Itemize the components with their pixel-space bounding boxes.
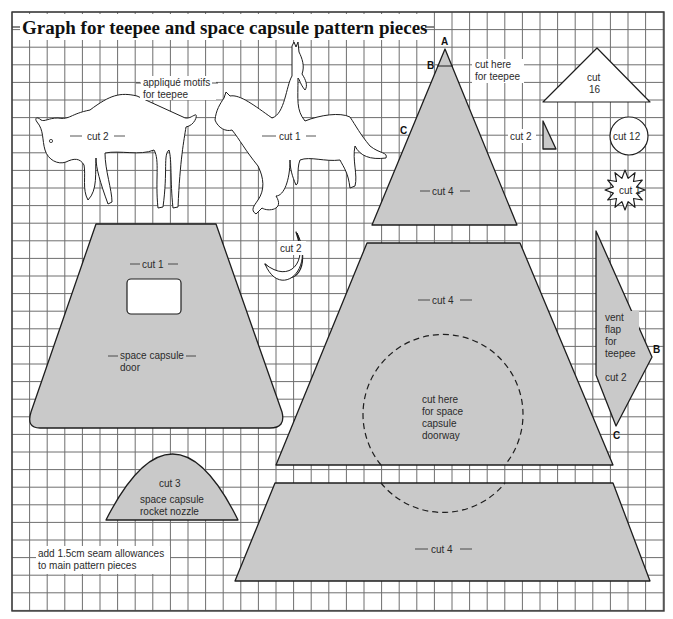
- svg-text:to main pattern pieces: to main pattern pieces: [38, 560, 136, 571]
- roof-triangle-cut-label: cut 16: [587, 72, 601, 95]
- svg-text:cut 3: cut 3: [159, 478, 181, 489]
- vent-point-c-label: C: [613, 430, 620, 441]
- vent-flap-cut-label: cut 2: [603, 371, 631, 385]
- lower-trapezoid-piece: [235, 483, 650, 581]
- pattern-sheet: Graph for teepee and space capsule patte…: [0, 0, 673, 619]
- svg-text:vent: vent: [605, 312, 624, 323]
- svg-text:door: door: [120, 362, 141, 373]
- svg-text:cut 2: cut 2: [87, 131, 109, 142]
- point-b-label: B: [427, 60, 434, 71]
- moon-cut-label: cut 2: [278, 241, 306, 255]
- svg-text:cut 4: cut 4: [432, 186, 454, 197]
- svg-text:cut 2: cut 2: [280, 243, 302, 254]
- svg-text:for space: for space: [422, 406, 464, 417]
- svg-text:capsule: capsule: [422, 418, 457, 429]
- svg-text:space capsule: space capsule: [120, 350, 184, 361]
- svg-text:appliqué motifs: appliqué motifs: [143, 77, 210, 88]
- svg-text:cut 2: cut 2: [510, 131, 532, 142]
- door-name-label: space capsule door: [108, 348, 196, 374]
- svg-text:cut 2: cut 2: [605, 372, 627, 383]
- seam-allowance-note: add 1.5cm seam allowances to main patter…: [36, 546, 170, 574]
- circle-cut-label: cut 12: [613, 131, 641, 142]
- svg-text:cut 1: cut 1: [142, 259, 164, 270]
- vent-point-b-label: B: [653, 344, 660, 355]
- svg-text:for: for: [605, 336, 617, 347]
- svg-text:teepee: teepee: [605, 348, 636, 359]
- nozzle-name-label: space capsule rocket nozzle: [138, 492, 204, 518]
- svg-text:cut: cut: [587, 72, 601, 83]
- applique-label: appliqué motifs for teepee: [136, 76, 218, 100]
- star-cut-label: cut 1: [619, 185, 641, 196]
- svg-text:16: 16: [589, 84, 601, 95]
- vent-flap-label: vent flap for teepee: [603, 311, 639, 361]
- page-title: Graph for teepee and space capsule patte…: [22, 17, 427, 38]
- svg-text:space capsule: space capsule: [140, 494, 204, 505]
- point-a-label: A: [441, 36, 448, 47]
- doorway-label: cut here for space capsule doorway: [420, 392, 474, 442]
- svg-text:cut 4: cut 4: [432, 295, 454, 306]
- svg-text:for teepee: for teepee: [143, 89, 188, 100]
- svg-text:add 1.5cm seam allowances: add 1.5cm seam allowances: [38, 548, 164, 559]
- svg-text:cut 4: cut 4: [431, 544, 453, 555]
- svg-text:flap: flap: [605, 324, 622, 335]
- svg-text:rocket nozzle: rocket nozzle: [140, 506, 199, 517]
- svg-text:for teepee: for teepee: [475, 71, 520, 82]
- nozzle-cut-label: cut 3: [157, 476, 185, 490]
- svg-text:doorway: doorway: [422, 430, 460, 441]
- svg-text:cut here: cut here: [422, 394, 459, 405]
- teepee-cut-here-label: cut here for teepee: [472, 59, 524, 83]
- small-triangle-cut-label: cut 2: [508, 129, 536, 143]
- svg-text:cut 1: cut 1: [279, 131, 301, 142]
- point-c-label: C: [400, 125, 407, 136]
- svg-text:cut here: cut here: [475, 59, 512, 70]
- door-window: [127, 279, 181, 314]
